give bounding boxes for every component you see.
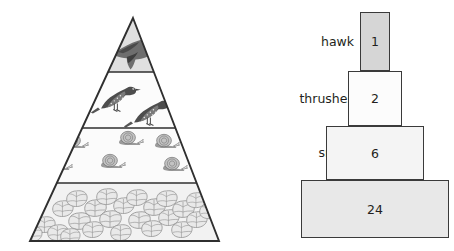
energy-pyramid-graphic: [0, 0, 248, 251]
bar-row-hawk: hawk 1: [248, 12, 454, 71]
bar-lettuce-leaves[interactable]: 24: [301, 180, 449, 238]
bar-value-hawk: 1: [371, 34, 379, 49]
bar-thrushes[interactable]: 2: [348, 71, 402, 126]
bar-hawk[interactable]: 1: [360, 12, 390, 71]
bar-row-thrushes: thrushes 2: [248, 71, 454, 126]
energy-pyramid-panel: [0, 0, 248, 251]
bar-diagram-panel: hawk 1 thrushes 2 snails 6 lettuce leave…: [248, 0, 454, 251]
bar-row-snails: snails 6: [248, 126, 454, 180]
bar-snails[interactable]: 6: [326, 126, 424, 180]
bar-slot-lettuce-leaves: 24: [360, 180, 454, 238]
bar-value-snails: 6: [371, 146, 379, 161]
bar-label-thrushes: thrushes: [248, 92, 360, 106]
bar-slot-hawk: 1: [360, 12, 454, 71]
bar-value-thrushes: 2: [371, 91, 379, 106]
bar-row-lettuce-leaves: lettuce leaves 24: [248, 180, 454, 238]
bar-slot-snails: 6: [360, 126, 454, 180]
bar-slot-thrushes: 2: [360, 71, 454, 126]
bar-label-hawk: hawk: [248, 35, 360, 49]
bar-value-lettuce-leaves: 24: [367, 202, 383, 217]
pyramid-tier-thrushes-fill: [0, 72, 248, 128]
